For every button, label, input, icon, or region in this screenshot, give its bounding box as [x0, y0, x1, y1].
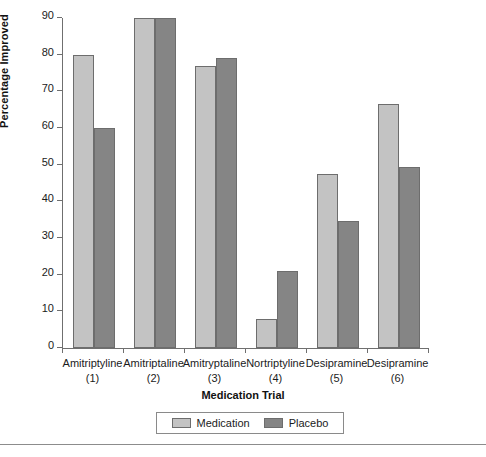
bar-placebo-4 [277, 271, 298, 348]
x-axis-title: Medication Trial [0, 389, 486, 401]
bar-medication-6 [378, 104, 399, 348]
legend-entry-medication: Medication [172, 417, 250, 429]
x-axis-tick [428, 348, 429, 353]
bar-medication-2 [134, 18, 155, 348]
bars-layer [63, 18, 429, 348]
bar-medication-3 [195, 66, 216, 348]
x-axis-tick [367, 348, 368, 353]
y-tick-label: 10 [42, 303, 54, 314]
x-category-index: (6) [353, 371, 442, 386]
bar-placebo-1 [94, 128, 115, 348]
legend-label: Medication [197, 417, 250, 429]
bar-medication-4 [256, 319, 277, 348]
bar-chart-figure: Percentage Improved 0102030405060708090 … [0, 0, 486, 457]
bar-placebo-2 [155, 18, 176, 348]
bottom-divider [0, 444, 486, 445]
y-tick-label: 60 [42, 120, 54, 131]
bar-placebo-6 [399, 167, 420, 349]
bar-medication-1 [73, 55, 94, 348]
y-tick-label: 70 [42, 83, 54, 94]
legend-swatch-medication [172, 418, 191, 428]
x-category-6: Desipramine(6) [353, 356, 442, 386]
x-axis-tick [245, 348, 246, 353]
bar-placebo-3 [216, 58, 237, 348]
legend-label: Placebo [289, 417, 329, 429]
y-tick-label: 40 [42, 193, 54, 204]
y-tick-label: 80 [42, 47, 54, 58]
y-tick-label: 30 [42, 230, 54, 241]
y-axis-title: Percentage Improved [0, 0, 10, 128]
bar-medication-5 [317, 174, 338, 348]
bar-placebo-5 [338, 221, 359, 348]
y-tick-label: 50 [42, 157, 54, 168]
x-axis-tick [306, 348, 307, 353]
x-axis-tick [184, 348, 185, 353]
y-tick-label: 20 [42, 267, 54, 278]
y-tick-label: 90 [42, 10, 54, 21]
x-category-name: Desipramine [367, 357, 429, 369]
chart-legend: MedicationPlacebo [156, 412, 344, 434]
legend-entry-placebo: Placebo [264, 417, 329, 429]
x-axis-tick [62, 348, 63, 353]
legend-swatch-placebo [264, 418, 283, 428]
x-axis-tick [123, 348, 124, 353]
y-tick-label: 0 [48, 340, 54, 351]
